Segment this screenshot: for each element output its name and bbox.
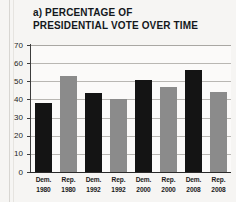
- y-tick-mark: [27, 172, 30, 173]
- bars-series: [31, 45, 231, 172]
- bar-rep-1992: [110, 99, 128, 172]
- x-label-party: Rep.: [106, 175, 131, 185]
- y-tick-mark: [27, 45, 30, 46]
- y-tick-label: 70: [1, 41, 23, 50]
- y-tick-label: 30: [1, 113, 23, 122]
- x-label-dem-2008: Dem.2008: [181, 175, 206, 194]
- bar-rep-2008: [210, 92, 228, 172]
- x-label-dem-1980: Dem.1980: [31, 175, 56, 194]
- y-tick-label: 40: [1, 95, 23, 104]
- bar-rep-1980: [60, 76, 78, 172]
- chart-title: a) PERCENTAGE OF PRESIDENTIAL VOTE OVER …: [33, 7, 233, 32]
- x-label-dem-1992: Dem.1992: [81, 175, 106, 194]
- bar-dem-2000: [135, 80, 153, 172]
- y-tick-mark: [27, 81, 30, 82]
- y-tick-mark: [27, 63, 30, 64]
- y-tick-label: 50: [1, 77, 23, 86]
- x-label-rep-2008: Rep.2008: [206, 175, 231, 194]
- y-tick-label: 20: [1, 131, 23, 140]
- y-tick-mark: [27, 118, 30, 119]
- bar-dem-2008: [185, 70, 203, 172]
- bar-dem-1980: [35, 103, 53, 172]
- bar-rep-2000: [160, 87, 178, 172]
- y-tick-label: 0: [1, 168, 23, 177]
- x-label-year: 1992: [81, 185, 106, 195]
- y-tick-mark: [27, 136, 30, 137]
- x-label-year: 1980: [31, 185, 56, 195]
- y-tick-mark: [27, 154, 30, 155]
- x-axis-labels: Dem.1980Rep.1980Dem.1992Rep.1992Dem.2000…: [31, 175, 231, 200]
- x-label-rep-1980: Rep.1980: [56, 175, 81, 194]
- x-label-party: Dem.: [181, 175, 206, 185]
- x-label-year: 1992: [106, 185, 131, 195]
- x-label-year: 2000: [156, 185, 181, 195]
- y-tick-label: 60: [1, 59, 23, 68]
- x-label-party: Rep.: [156, 175, 181, 185]
- y-tick-label: 10: [1, 149, 23, 158]
- bar-dem-1992: [85, 93, 103, 172]
- x-label-year: 2008: [206, 185, 231, 195]
- y-tick-mark: [27, 99, 30, 100]
- x-label-year: 2008: [181, 185, 206, 195]
- x-label-party: Rep.: [56, 175, 81, 185]
- chart-figure: a) PERCENTAGE OF PRESIDENTIAL VOTE OVER …: [0, 0, 236, 202]
- x-label-party: Dem.: [81, 175, 106, 185]
- x-label-rep-1992: Rep.1992: [106, 175, 131, 194]
- x-label-year: 2000: [131, 185, 156, 195]
- x-label-dem-2000: Dem.2000: [131, 175, 156, 194]
- x-label-party: Rep.: [206, 175, 231, 185]
- x-label-year: 1980: [56, 185, 81, 195]
- x-label-party: Dem.: [31, 175, 56, 185]
- x-label-rep-2000: Rep.2000: [156, 175, 181, 194]
- x-label-party: Dem.: [131, 175, 156, 185]
- x-axis-line: [30, 172, 231, 173]
